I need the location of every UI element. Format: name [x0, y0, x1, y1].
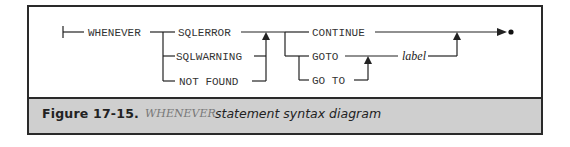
option-not-found: NOT FOUND	[179, 76, 239, 88]
syntax-diagram: WHENEVER SQLERROR SQLWARNING NOT FOUND	[29, 7, 541, 97]
arrow-up-icon	[262, 32, 270, 40]
arrow-up-icon	[364, 56, 372, 64]
option-goto: GOTO	[312, 51, 339, 63]
option-continue: CONTINUE	[312, 27, 365, 39]
option-sqlwarning: SQLWARNING	[176, 51, 242, 63]
option-go-to: GO TO	[312, 75, 345, 87]
figure-number: Figure 17-15.	[42, 106, 139, 121]
end-dot-icon	[508, 29, 513, 34]
start-marker	[63, 26, 84, 38]
arrow-up-icon	[453, 32, 461, 40]
option-sqlerror: SQLERROR	[178, 27, 231, 39]
figure-caption: Figure 17-15. WHENEVER statement syntax …	[29, 97, 541, 133]
keyword-whenever: WHENEVER	[88, 27, 141, 39]
arrow-right-icon	[497, 28, 507, 36]
label-placeholder: label	[402, 49, 427, 63]
caption-text: statement syntax diagram	[215, 106, 381, 121]
figure-frame: WHENEVER SQLERROR SQLWARNING NOT FOUND	[27, 5, 543, 135]
caption-keyword: WHENEVER	[145, 107, 216, 120]
